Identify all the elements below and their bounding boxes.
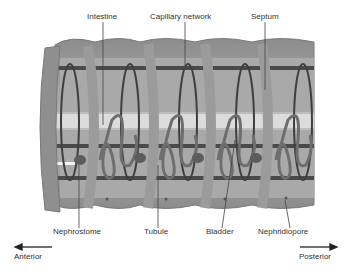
- anterior-arrow-icon: [15, 244, 22, 250]
- label-capillary-network: Capillary network: [150, 12, 211, 21]
- posterior-arrow-icon: [330, 244, 337, 250]
- label-bladder: Bladder: [206, 227, 234, 236]
- label-tubule: Tubule: [144, 227, 168, 236]
- label-anterior: Anterior: [14, 252, 42, 261]
- label-nephridiopore: Nephridiopore: [258, 227, 308, 236]
- label-septum: Septum: [251, 12, 279, 21]
- direction-arrows: [15, 244, 337, 250]
- label-posterior: Posterior: [299, 252, 331, 261]
- label-intestine: Intestine: [87, 12, 117, 21]
- label-nephrostome: Nephrostome: [53, 227, 101, 236]
